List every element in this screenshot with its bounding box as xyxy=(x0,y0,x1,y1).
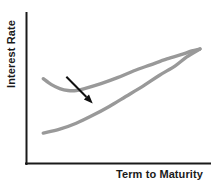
humped-yield-curve xyxy=(43,49,200,91)
x-axis-label: Term to Maturity xyxy=(116,168,203,180)
yield-curve-chart: Interest Rate Term to Maturity xyxy=(0,0,215,182)
downward-shift-arrow-shaft xyxy=(66,77,86,97)
chart-plot-area xyxy=(0,0,215,182)
y-axis-label: Interest Rate xyxy=(5,11,17,97)
